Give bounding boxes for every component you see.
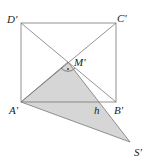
label-dprime: D' — [6, 13, 18, 25]
geometry-diagram: D' C' M' A' h B' S' — [0, 0, 149, 167]
label-aprime: A' — [8, 104, 19, 116]
label-sprime: S' — [134, 146, 143, 158]
label-h: h — [94, 104, 100, 116]
label-cprime: C' — [117, 12, 127, 24]
label-bprime: B' — [114, 104, 124, 116]
label-mprime: M' — [73, 56, 86, 68]
right-angle-dot — [67, 68, 69, 70]
